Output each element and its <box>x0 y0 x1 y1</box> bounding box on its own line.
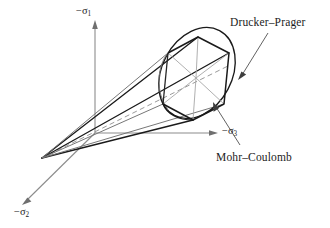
sigma2-axis-label: −σ2 <box>14 207 29 219</box>
sigma2-subscript: 2 <box>26 211 30 219</box>
sigma1-axis-arrowhead <box>92 20 98 29</box>
sigma3-axis-arrowhead <box>209 130 218 136</box>
sigma1-axis-label: −σ1 <box>76 6 91 18</box>
spoke-to-vertex-1 <box>196 37 198 78</box>
sigma2-axis-arrowhead <box>22 198 31 205</box>
cone-generator-lower-right <box>42 104 224 158</box>
spoke-to-vertex-2 <box>196 53 229 78</box>
drucker-prager-label: Drucker–Prager <box>230 17 306 29</box>
sigma3-subscript: 3 <box>234 130 238 138</box>
hydrostatic-axis-dashed <box>42 66 228 158</box>
spoke-to-vertex-4 <box>193 78 196 120</box>
drucker-prager-leader-line <box>242 33 268 75</box>
cone-generator-left <box>42 104 163 158</box>
mohr-coulomb-label: Mohr–Coulomb <box>216 152 292 164</box>
sigma1-subscript: 1 <box>88 10 92 18</box>
sigma3-axis-label: −σ3 <box>222 126 237 138</box>
spoke-to-vertex-5 <box>163 78 196 104</box>
spoke-to-vertex-3 <box>196 78 224 104</box>
drucker-prager-leader-arrowhead <box>238 72 246 80</box>
cone-generators-group <box>42 37 229 158</box>
stress-space-yield-surface-figure: −σ1 −σ2 −σ3 Drucker–Prager Mohr–Coulomb <box>0 0 330 228</box>
pi-plane-spokes-group <box>163 37 229 120</box>
spoke-to-vertex-6 <box>168 53 196 78</box>
axes-group <box>22 20 218 205</box>
cone-generator-upper-right <box>42 53 229 158</box>
cone-generator-top <box>42 37 198 158</box>
